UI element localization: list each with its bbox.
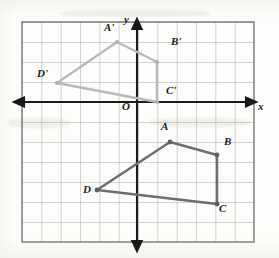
vertex-label-c: C — [219, 203, 226, 214]
vertex-label-d-prime: D' — [37, 68, 48, 79]
origin-label: O — [122, 101, 130, 112]
vertex-label-a: A — [161, 121, 168, 132]
vertex-label-a-prime: A' — [104, 22, 114, 33]
coordinate-plane-screenshot: A' B' C' D' A B C D O x y — [0, 0, 279, 258]
y-axis-label: y — [124, 14, 129, 25]
vertex-label-b: B — [224, 136, 231, 147]
vertex-label-c-prime: C' — [166, 85, 176, 96]
vertex-label-d: D — [83, 184, 91, 195]
x-axis-label: x — [258, 101, 264, 112]
coordinate-plane-svg — [0, 0, 279, 258]
vertex-label-b-prime: B' — [171, 36, 181, 47]
